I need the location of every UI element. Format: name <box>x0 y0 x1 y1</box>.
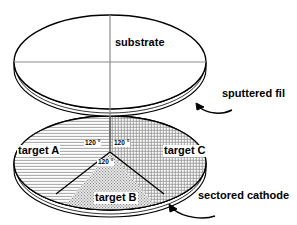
target-c-label: target C <box>163 145 207 157</box>
angle-label-target-c: 120 ° <box>113 140 130 147</box>
sectored-cathode-arrow-curve <box>173 209 215 218</box>
sectored-cathode-callout-label: sectored cathode <box>197 190 290 202</box>
angle-label-target-b: 120 ° <box>97 159 114 166</box>
target-a-label: target A <box>17 145 60 157</box>
substrate-label: substrate <box>114 37 166 49</box>
sputtered-film-callout-label: sputtered fil <box>221 88 286 100</box>
figure-canvas: substrate target A target B target C 120… <box>0 0 297 225</box>
sputtered-film-arrow-curve <box>199 107 232 113</box>
target-b-label: target B <box>94 192 138 204</box>
angle-label-target-a: 120 ° <box>84 140 101 147</box>
